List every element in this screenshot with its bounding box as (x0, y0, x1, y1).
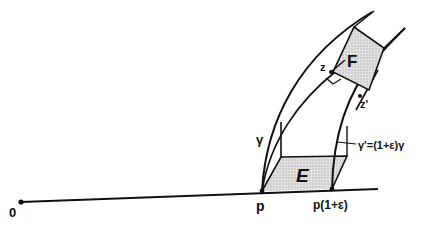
box-F-top-extension (354, 11, 374, 27)
label-box-F: F (347, 52, 357, 71)
point-z (329, 70, 333, 74)
label-origin: 0 (9, 205, 16, 220)
label-gamma-prime: γ'=(1+ε)γ (358, 139, 405, 151)
box-F (333, 27, 384, 90)
box-F-extension (384, 28, 405, 48)
label-box-E: E (296, 165, 310, 186)
label-z-prime: z' (360, 98, 369, 110)
label-gamma: γ (256, 132, 264, 147)
label-p: p (256, 198, 265, 214)
origin-point (18, 199, 23, 204)
point-p (260, 189, 265, 194)
label-p-scaled: p(1+ε) (313, 198, 348, 212)
label-z: z (320, 61, 326, 73)
point-p-scaled (330, 187, 335, 192)
right-angle-marker (326, 78, 341, 84)
diagram-canvas: 0 p p(1+ε) γ γ'=(1+ε)γ z z' E F (0, 0, 429, 228)
